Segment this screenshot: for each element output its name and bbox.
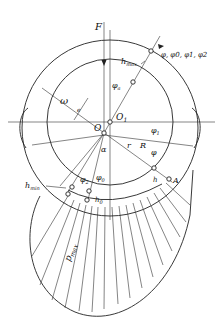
pressure-lines bbox=[32, 183, 190, 312]
label-hmax: hmax bbox=[121, 57, 137, 67]
point-A bbox=[167, 177, 171, 181]
label-phi2: φ2 bbox=[80, 175, 89, 185]
point-O bbox=[102, 131, 106, 135]
label-phi0: φ0 bbox=[96, 173, 106, 183]
label-hmin: hmin bbox=[25, 181, 40, 191]
label-h0: h0 bbox=[95, 196, 104, 205]
tilt-line-right bbox=[104, 135, 193, 146]
point-h0-a bbox=[87, 189, 91, 193]
tilt-line bbox=[32, 135, 104, 145]
film-arc bbox=[68, 184, 162, 200]
label-alpha: α bbox=[101, 145, 107, 154]
label-R: R bbox=[139, 141, 146, 150]
label-angles: φ, φ0, φ1, φ2 bbox=[161, 51, 208, 59]
label-O: O bbox=[94, 123, 102, 133]
right-bulge bbox=[192, 108, 200, 148]
point-h0-b bbox=[85, 198, 89, 202]
left-bulge bbox=[20, 108, 28, 148]
direction-arrow bbox=[158, 44, 164, 49]
point-O1 bbox=[108, 120, 112, 124]
label-phi1: φ1 bbox=[151, 126, 160, 136]
label-phi-a: φa bbox=[112, 81, 121, 91]
bearing-diagram: F hmax φ, φ0, φ1, φ2 φa ω e O1 O φ1 α r … bbox=[0, 0, 221, 325]
hmin-leader bbox=[46, 186, 66, 188]
point-hmax-outer bbox=[149, 49, 153, 53]
label-omega: ω bbox=[60, 95, 68, 106]
label-F: F bbox=[94, 21, 103, 32]
label-r: r bbox=[127, 141, 132, 150]
force-arrow bbox=[102, 60, 107, 66]
label-h: h bbox=[153, 176, 158, 184]
label-e: e bbox=[77, 106, 81, 113]
label-phi: φ bbox=[151, 148, 157, 157]
point-h bbox=[152, 166, 156, 170]
label-pmax: pmax bbox=[62, 241, 79, 263]
point-hmin-b bbox=[66, 192, 70, 196]
label-O1: O1 bbox=[116, 112, 127, 123]
point-hmax-inner bbox=[131, 80, 135, 84]
point-hmin-a bbox=[70, 185, 74, 189]
label-A: A bbox=[172, 176, 179, 185]
